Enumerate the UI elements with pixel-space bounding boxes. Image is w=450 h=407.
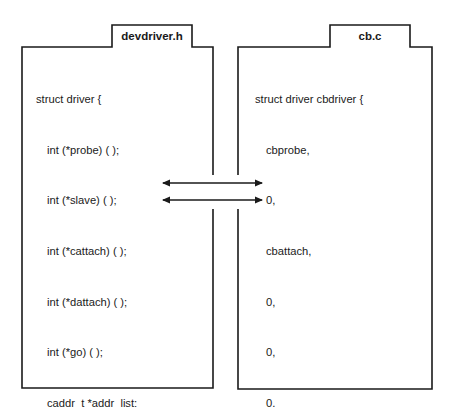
- right-code-listing: struct driver cbdriver { cbprobe, 0, cba…: [255, 57, 363, 407]
- code-line: 0,: [255, 344, 363, 361]
- right-file-title: cb.c: [330, 28, 410, 44]
- code-line: caddr_t *addr_list;: [36, 395, 173, 407]
- left-code-listing: struct driver { int (*probe) ( ); int (*…: [36, 57, 173, 407]
- code-line: int (*dattach) ( );: [36, 294, 173, 311]
- code-line: int (*go) ( );: [36, 344, 173, 361]
- code-line: 0,: [255, 192, 363, 209]
- code-line: struct driver cbdriver {: [255, 91, 363, 108]
- code-line: int (*cattach) ( );: [36, 243, 173, 260]
- code-line: 0,: [255, 294, 363, 311]
- code-line: int (*probe) ( );: [36, 142, 173, 159]
- code-line: cbattach,: [255, 243, 363, 260]
- code-line: cbprobe,: [255, 142, 363, 159]
- code-line: struct driver {: [36, 91, 173, 108]
- code-line: int (*slave) ( );: [36, 192, 173, 209]
- code-line: 0,: [255, 395, 363, 407]
- left-file-title: devdriver.h: [112, 28, 192, 44]
